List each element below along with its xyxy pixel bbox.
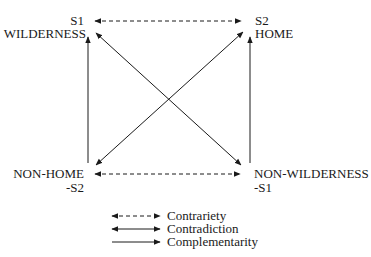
contradiction-arrow-s2-nonhome xyxy=(96,32,243,165)
node-nonwilderness-term: NON-WILDERNESS xyxy=(254,167,369,181)
node-nonhome-code: -S2 xyxy=(0,181,84,195)
node-nonhome-term: NON-HOME xyxy=(0,167,84,181)
node-nonwilderness-code: -S1 xyxy=(254,181,272,195)
node-s1-term: WILDERNESS xyxy=(0,27,86,41)
node-s2-term: HOME xyxy=(255,27,293,41)
legend-complementarity-label: Complementarity xyxy=(167,235,258,249)
